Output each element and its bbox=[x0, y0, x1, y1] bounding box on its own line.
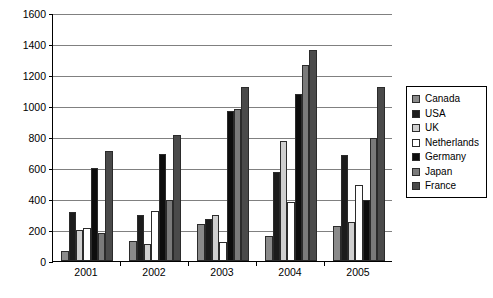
legend-item-usa[interactable]: USA bbox=[412, 107, 482, 121]
y-axis-tick-label: 1600 bbox=[12, 9, 46, 19]
bar-canada bbox=[61, 251, 68, 261]
legend-swatch-icon bbox=[412, 182, 420, 190]
bar-germany bbox=[227, 111, 234, 261]
bar-uk bbox=[76, 230, 83, 261]
y-axis-tick-label: 600 bbox=[12, 164, 46, 174]
legend-item-germany[interactable]: Germany bbox=[412, 150, 482, 164]
bar-germany bbox=[363, 200, 370, 261]
legend-swatch-icon bbox=[412, 110, 420, 118]
x-axis-tick-mark bbox=[324, 262, 325, 266]
plot-area bbox=[52, 14, 392, 262]
x-axis-tick-label: 2004 bbox=[256, 266, 324, 278]
bar-france bbox=[241, 87, 248, 261]
y-axis-tick-label: 200 bbox=[12, 226, 46, 236]
x-axis-tick-mark bbox=[188, 262, 189, 266]
bar-uk bbox=[280, 141, 287, 261]
bar-japan bbox=[302, 65, 309, 261]
x-axis-tick-label: 2001 bbox=[52, 266, 120, 278]
bar-usa bbox=[137, 215, 144, 261]
legend-item-uk[interactable]: UK bbox=[412, 121, 482, 135]
bar-germany bbox=[295, 94, 302, 261]
legend-item-france[interactable]: France bbox=[412, 179, 482, 193]
bar-netherlands bbox=[287, 202, 294, 261]
bar-france bbox=[105, 151, 112, 261]
bar-netherlands bbox=[355, 185, 362, 261]
bar-japan bbox=[370, 138, 377, 261]
bar-canada bbox=[197, 224, 204, 261]
legend-item-canada[interactable]: Canada bbox=[412, 92, 482, 106]
bar-uk bbox=[144, 244, 151, 261]
bar-usa bbox=[273, 172, 280, 261]
legend-item-label: France bbox=[425, 181, 456, 191]
bar-group bbox=[121, 14, 189, 261]
bar-japan bbox=[234, 109, 241, 261]
legend-item-label: Netherlands bbox=[425, 138, 479, 148]
bar-group bbox=[53, 14, 121, 261]
bar-group bbox=[189, 14, 257, 261]
bar-group bbox=[325, 14, 393, 261]
legend-swatch-icon bbox=[412, 139, 420, 147]
legend-item-label: Japan bbox=[425, 167, 452, 177]
x-axis-tick-mark bbox=[120, 262, 121, 266]
x-axis-tick-label: 2005 bbox=[324, 266, 392, 278]
bar-canada bbox=[333, 226, 340, 261]
bar-germany bbox=[91, 168, 98, 261]
bar-japan bbox=[166, 200, 173, 261]
bar-netherlands bbox=[219, 242, 226, 261]
legend-item-japan[interactable]: Japan bbox=[412, 165, 482, 179]
legend-item-label: USA bbox=[425, 109, 446, 119]
legend-swatch-icon bbox=[412, 95, 420, 103]
y-axis-tick-label: 1400 bbox=[12, 40, 46, 50]
legend-swatch-icon bbox=[412, 168, 420, 176]
bar-japan bbox=[98, 233, 105, 261]
y-axis-tick-mark bbox=[49, 262, 53, 263]
legend-item-label: Canada bbox=[425, 94, 460, 104]
bar-netherlands bbox=[83, 228, 90, 261]
bar-uk bbox=[348, 222, 355, 261]
bar-france bbox=[173, 135, 180, 261]
bar-group bbox=[257, 14, 325, 261]
y-axis-tick-label: 0 bbox=[12, 257, 46, 267]
legend-swatch-icon bbox=[412, 124, 420, 132]
y-axis-tick-label: 1000 bbox=[12, 102, 46, 112]
bars-layer bbox=[53, 14, 392, 261]
bar-canada bbox=[129, 241, 136, 261]
y-axis: 16001400120010008006004002000 bbox=[8, 0, 46, 298]
chart-legend: CanadaUSAUKNetherlandsGermanyJapanFrance bbox=[406, 86, 487, 198]
bar-usa bbox=[69, 212, 76, 261]
x-axis: 20012002200320042005 bbox=[52, 266, 392, 286]
x-axis-tick-label: 2003 bbox=[188, 266, 256, 278]
legend-item-label: Germany bbox=[425, 152, 466, 162]
legend-swatch-icon bbox=[412, 153, 420, 161]
bar-germany bbox=[159, 154, 166, 261]
y-axis-tick-label: 400 bbox=[12, 195, 46, 205]
bar-usa bbox=[205, 219, 212, 261]
bar-france bbox=[377, 87, 384, 261]
x-axis-tick-mark bbox=[256, 262, 257, 266]
y-axis-tick-label: 1200 bbox=[12, 71, 46, 81]
bar-chart: 16001400120010008006004002000 2001200220… bbox=[0, 0, 493, 298]
bar-france bbox=[309, 50, 316, 261]
bar-canada bbox=[265, 236, 272, 261]
legend-item-label: UK bbox=[425, 123, 439, 133]
y-axis-tick-label: 800 bbox=[12, 133, 46, 143]
x-axis-tick-label: 2002 bbox=[120, 266, 188, 278]
legend-item-netherlands[interactable]: Netherlands bbox=[412, 136, 482, 150]
bar-netherlands bbox=[151, 211, 158, 261]
bar-uk bbox=[212, 215, 219, 262]
bar-usa bbox=[341, 155, 348, 261]
